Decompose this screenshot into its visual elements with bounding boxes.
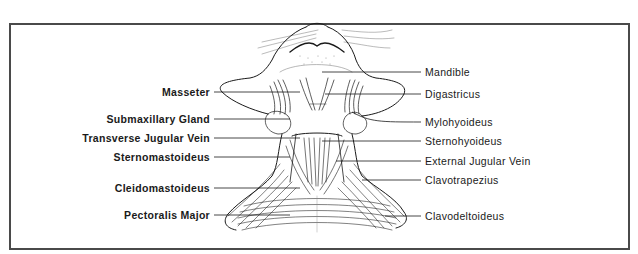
leader-lines	[214, 72, 421, 216]
sternomastoideus	[286, 140, 348, 194]
head-outline	[220, 27, 306, 114]
label-clavotrapezius: Clavotrapezius	[425, 174, 499, 186]
label-mylohyoideus: Mylohyoideus	[425, 116, 493, 128]
label-clavodeltoideus: Clavodeltoideus	[425, 210, 504, 222]
leader-mylohyoideus	[352, 112, 421, 122]
external-jugular-vein-left	[290, 134, 296, 182]
mandible-arc	[280, 65, 352, 73]
label-submaxillary-gland: Submaxillary Gland	[107, 113, 210, 125]
shoulder-fibers-left	[228, 164, 296, 228]
transverse-jugular-vein	[292, 133, 342, 136]
label-masseter: Masseter	[162, 86, 210, 98]
label-external-jugular-vein: External Jugular Vein	[425, 155, 531, 167]
submaxillary-gland-left	[265, 111, 291, 134]
chin-tip	[306, 23, 328, 27]
sternohyoideus	[304, 138, 330, 186]
label-transverse-jugular-vein: Transverse Jugular Vein	[82, 132, 210, 144]
cat-neck-anatomy-illustration	[0, 0, 638, 254]
whiskers	[258, 30, 394, 54]
label-sternohyoideus: Sternohyoideus	[425, 135, 502, 147]
label-sternomastoideus: Sternomastoideus	[114, 151, 210, 163]
label-pectoralis-major: Pectoralis Major	[124, 209, 210, 221]
label-mandible: Mandible	[425, 66, 470, 78]
label-cleidomastoideus: Cleidomastoideus	[115, 182, 210, 194]
masseter-left	[270, 80, 290, 114]
lip-line	[290, 43, 344, 52]
masseter-right	[345, 80, 363, 114]
pectoralis-major	[238, 196, 396, 232]
label-digastricus: Digastricus	[425, 88, 480, 100]
shoulder-fibers-right	[338, 164, 404, 228]
chin-stipple	[300, 56, 335, 65]
